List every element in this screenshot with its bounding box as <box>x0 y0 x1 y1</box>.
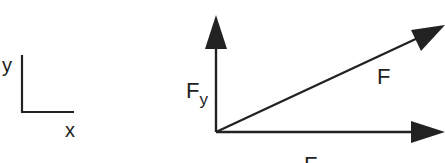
vector-diagram: y x Fy Fx F <box>0 0 445 163</box>
fx-vector: Fx <box>216 121 445 163</box>
fx-label-main: F <box>304 152 317 163</box>
x-axis-label: x <box>65 119 75 141</box>
fy-label-sub: y <box>199 90 208 109</box>
f-label: F <box>377 64 390 89</box>
fy-label: Fy <box>186 78 208 109</box>
fx-arrowhead-icon <box>411 121 445 143</box>
y-axis-label: y <box>2 54 12 76</box>
f-arrowhead-icon <box>411 25 445 51</box>
fy-label-main: F <box>186 78 199 103</box>
fy-arrowhead-icon <box>205 15 227 49</box>
f-resultant-vector: F <box>216 25 445 132</box>
axes-legend-lines <box>22 55 74 112</box>
fy-vector: Fy <box>186 15 227 132</box>
fx-label: Fx <box>304 152 326 163</box>
axes-legend: y x <box>2 54 75 141</box>
